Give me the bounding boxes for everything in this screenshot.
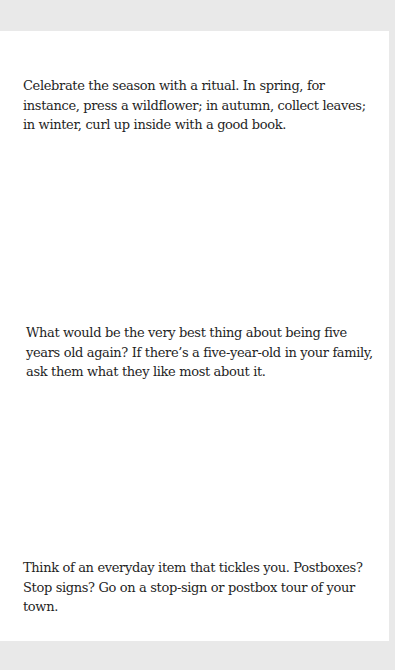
document-page: Celebrate the season with a ritual. In s… (0, 31, 389, 641)
prompt-paragraph-everyday-item: Think of an everyday item that tickles y… (23, 558, 375, 617)
prompt-paragraph-seasonal-ritual: Celebrate the season with a ritual. In s… (23, 76, 375, 135)
prompt-paragraph-five-years-old: What would be the very best thing about … (26, 323, 374, 382)
